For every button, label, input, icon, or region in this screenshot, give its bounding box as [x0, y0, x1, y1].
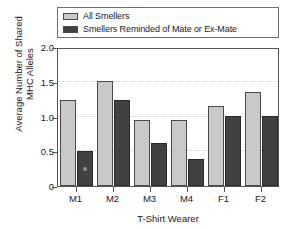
x-tick-mark [261, 187, 262, 192]
bar[interactable] [208, 106, 224, 186]
bar[interactable] [114, 100, 130, 186]
bar[interactable] [77, 151, 93, 186]
bar[interactable] [171, 120, 187, 186]
legend-swatch-reminded-smellers [63, 26, 78, 33]
plot-area [57, 48, 279, 187]
bar-group [132, 120, 169, 186]
bar-group [206, 106, 243, 186]
bar[interactable] [262, 116, 278, 186]
chart-legend: All Smellers Smellers Reminded of Mate o… [57, 7, 279, 38]
x-tick-mark [187, 187, 188, 192]
y-tick-label: 0 [28, 182, 54, 192]
bar-groups [58, 49, 278, 186]
legend-label-reminded-smellers: Smellers Reminded of Mate or Ex-Mate [83, 25, 237, 34]
y-tick-label: 1.5 [28, 78, 54, 88]
bar[interactable] [134, 120, 150, 186]
x-tick-mark [113, 187, 114, 192]
chart-figure: All Smellers Smellers Reminded of Mate o… [0, 0, 288, 229]
bar[interactable] [225, 116, 241, 186]
bar-group [95, 81, 132, 186]
bar-group [58, 100, 95, 186]
x-tick-label: M3 [130, 194, 170, 204]
legend-item-all-smellers: All Smellers [63, 10, 274, 23]
x-tick-label: F1 [204, 194, 244, 204]
bar-group [169, 120, 206, 186]
legend-item-reminded-smellers: Smellers Reminded of Mate or Ex-Mate [63, 23, 274, 36]
y-tick-label: 2.0 [28, 43, 54, 53]
bar[interactable] [60, 100, 76, 186]
y-tick-mark [52, 187, 57, 188]
x-tick-label: M1 [56, 194, 96, 204]
x-axis-title: T-Shirt Wearer [57, 213, 279, 224]
x-tick-mark [76, 187, 77, 192]
bar[interactable] [245, 92, 261, 186]
bar[interactable] [151, 143, 167, 186]
y-tick-label: 1.0 [28, 113, 54, 123]
bar-group [243, 92, 280, 186]
legend-swatch-all-smellers [63, 13, 78, 20]
legend-label-all-smellers: All Smellers [83, 12, 129, 21]
bar[interactable] [188, 159, 204, 186]
y-tick-label: 0.5 [28, 147, 54, 157]
bar-marker-dot [83, 167, 87, 171]
bar[interactable] [97, 81, 113, 186]
x-tick-label: M4 [167, 194, 207, 204]
x-tick-mark [150, 187, 151, 192]
y-axis-title: Average Number of Shared MHC Alleles [13, 0, 35, 149]
x-tick-label: M2 [93, 194, 133, 204]
x-tick-label: F2 [241, 194, 281, 204]
x-tick-mark [224, 187, 225, 192]
